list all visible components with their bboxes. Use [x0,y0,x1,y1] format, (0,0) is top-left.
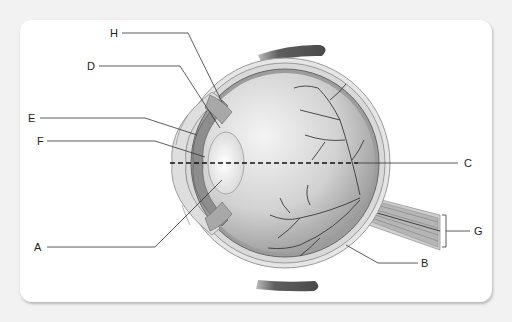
label-c: C [464,158,472,169]
label-a: A [34,242,41,253]
label-d: D [87,61,95,72]
label-h: H [110,28,118,39]
eye-diagram [0,0,512,322]
label-f: F [37,136,44,147]
label-g: G [474,226,483,237]
label-b: B [421,258,428,269]
label-e: E [28,113,35,124]
inferior-muscle-icon [256,280,318,291]
